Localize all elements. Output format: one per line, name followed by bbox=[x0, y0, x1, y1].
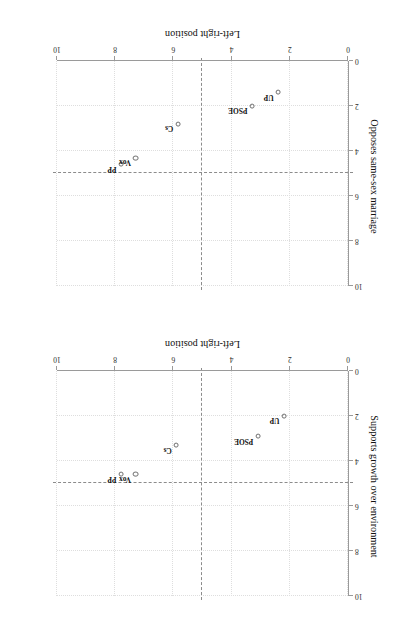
y-axis-tick-label: 0 bbox=[355, 367, 365, 376]
y-axis-tick-label: 2 bbox=[355, 412, 365, 421]
x-axis-tick-label: 0 bbox=[346, 45, 350, 54]
x-axis-tick-label: 10 bbox=[53, 45, 61, 54]
x-axis-tick bbox=[114, 56, 115, 60]
gridline-horizontal bbox=[57, 415, 348, 416]
y-axis-tick bbox=[349, 285, 353, 286]
x-axis-tick-label: 2 bbox=[288, 45, 292, 54]
gridline-horizontal bbox=[57, 240, 348, 241]
gridline-vertical bbox=[56, 371, 57, 596]
y-axis-title: Supports growth over environment bbox=[369, 374, 380, 599]
reference-line-y bbox=[53, 483, 353, 484]
gridline-vertical bbox=[172, 61, 173, 286]
data-point-label: Cs bbox=[164, 445, 172, 454]
y-axis-tick bbox=[349, 150, 353, 151]
panel-supports-growth-over-environment: 02468100246810Left-right positionSupport… bbox=[0, 321, 405, 618]
data-point bbox=[276, 90, 281, 95]
x-axis-tick bbox=[289, 56, 290, 60]
gridline-vertical bbox=[114, 371, 115, 596]
x-axis-title: Left-right position bbox=[57, 339, 348, 350]
x-axis-tick-label: 0 bbox=[346, 355, 350, 364]
figure-canvas: Spanish party voters on questions green … bbox=[0, 0, 405, 618]
gridline-vertical bbox=[231, 61, 232, 286]
gridline-vertical bbox=[114, 61, 115, 286]
gridline-horizontal bbox=[57, 460, 348, 461]
y-axis-tick bbox=[349, 550, 353, 551]
x-axis-tick-label: 10 bbox=[53, 355, 61, 364]
y-axis-tick-label: 10 bbox=[355, 592, 365, 601]
data-point-label: UP bbox=[270, 416, 280, 425]
x-axis-tick bbox=[347, 56, 348, 60]
y-axis-tick bbox=[349, 370, 353, 371]
x-axis-tick-label: 6 bbox=[172, 355, 176, 364]
data-point bbox=[133, 155, 138, 160]
x-axis-line bbox=[57, 60, 348, 61]
y-axis-tick-label: 6 bbox=[355, 502, 365, 511]
gridline-vertical bbox=[56, 61, 57, 286]
x-axis-tick bbox=[114, 366, 115, 370]
x-axis-tick-label: 2 bbox=[288, 355, 292, 364]
reference-line-x bbox=[202, 58, 203, 290]
y-axis-line bbox=[348, 371, 349, 596]
y-axis-tick bbox=[349, 60, 353, 61]
x-axis-tick bbox=[231, 56, 232, 60]
y-axis-tick-label: 4 bbox=[355, 147, 365, 156]
x-axis-tick-label: 8 bbox=[113, 45, 117, 54]
x-axis-line bbox=[57, 370, 348, 371]
y-axis-tick-label: 10 bbox=[355, 282, 365, 291]
y-axis-tick bbox=[349, 460, 353, 461]
x-axis-tick-label: 4 bbox=[230, 45, 234, 54]
y-axis-tick-label: 4 bbox=[355, 457, 365, 466]
x-axis-title: Left-right position bbox=[57, 29, 348, 40]
figure-rotation-wrapper: Spanish party voters on questions green … bbox=[0, 0, 405, 618]
y-axis-tick bbox=[349, 415, 353, 416]
gridline-horizontal bbox=[57, 150, 348, 151]
data-point bbox=[133, 472, 138, 477]
x-axis-tick bbox=[231, 366, 232, 370]
data-point-label: Cs bbox=[165, 124, 173, 133]
y-axis-title: Opposes same-sex marriage bbox=[369, 64, 380, 289]
y-axis-tick bbox=[349, 505, 353, 506]
y-axis-tick bbox=[349, 105, 353, 106]
x-axis-tick bbox=[172, 56, 173, 60]
x-axis-tick-label: 4 bbox=[230, 355, 234, 364]
data-point bbox=[281, 413, 286, 418]
data-point-label: UP bbox=[264, 93, 274, 102]
gridline-horizontal bbox=[57, 105, 348, 106]
y-axis-tick-label: 2 bbox=[355, 102, 365, 111]
gridline-vertical bbox=[289, 371, 290, 596]
data-point-label: Vox bbox=[119, 158, 131, 167]
gridline-vertical bbox=[289, 61, 290, 286]
y-axis-tick-label: 8 bbox=[355, 237, 365, 246]
data-point-label: PP bbox=[108, 475, 117, 484]
x-axis-tick-label: 6 bbox=[172, 45, 176, 54]
y-axis-tick bbox=[349, 240, 353, 241]
y-axis-tick-label: 6 bbox=[355, 192, 365, 201]
reference-line-y bbox=[53, 173, 353, 174]
data-point-label: PSOE bbox=[234, 436, 253, 445]
gridline-horizontal bbox=[57, 285, 348, 286]
gridline-vertical bbox=[172, 371, 173, 596]
gridline-horizontal bbox=[57, 550, 348, 551]
y-axis-tick-label: 0 bbox=[355, 57, 365, 66]
x-axis-tick-label: 8 bbox=[113, 355, 117, 364]
data-point bbox=[175, 121, 180, 126]
data-point bbox=[174, 443, 179, 448]
y-axis-line bbox=[348, 61, 349, 286]
gridline-horizontal bbox=[57, 595, 348, 596]
gridline-horizontal bbox=[57, 195, 348, 196]
x-axis-tick bbox=[289, 366, 290, 370]
y-axis-tick bbox=[349, 595, 353, 596]
data-point bbox=[255, 434, 260, 439]
reference-line-x bbox=[202, 368, 203, 600]
x-axis-tick bbox=[172, 366, 173, 370]
data-point bbox=[249, 103, 254, 108]
data-point-label: PP bbox=[108, 165, 117, 174]
x-axis-tick bbox=[56, 56, 57, 60]
gridline-horizontal bbox=[57, 505, 348, 506]
gridline-vertical bbox=[231, 371, 232, 596]
data-point-label: PSOE bbox=[228, 106, 247, 115]
y-axis-tick-label: 8 bbox=[355, 547, 365, 556]
x-axis-tick bbox=[56, 366, 57, 370]
x-axis-tick bbox=[347, 366, 348, 370]
data-point-label: Vox bbox=[119, 475, 131, 484]
